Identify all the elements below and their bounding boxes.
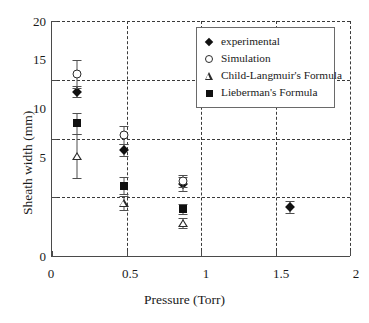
error-bar-cap	[119, 177, 128, 178]
sheath-width-vs-pressure-chart: 20 15 10 5 0 0 0.5 1 1.5 2 Pressure (Tor…	[0, 0, 369, 323]
legend-label: Simulation	[221, 53, 271, 64]
filled-square-icon	[204, 86, 218, 100]
x-axis-title: Pressure (Torr)	[0, 292, 369, 308]
legend-label: experimental	[221, 36, 280, 47]
y-axis-tick	[52, 197, 57, 198]
error-bar-cap	[73, 60, 82, 61]
data-point-open-triangle	[119, 199, 129, 207]
x-axis-tick	[127, 251, 128, 256]
data-point-open-circle	[179, 176, 188, 185]
error-bar-cap	[73, 113, 82, 114]
data-point-filled-square	[73, 119, 81, 127]
filled-diamond-icon	[204, 35, 218, 49]
legend-item-simulation: Simulation	[204, 50, 328, 67]
error-bar-cap	[119, 196, 128, 197]
error-bar-cap	[119, 194, 128, 195]
x-tick-label: 0	[31, 266, 71, 282]
legend-label: Lieberman's Formula	[221, 87, 317, 98]
error-bar-cap	[179, 187, 188, 188]
error-bar-cap	[73, 88, 82, 89]
error-bar-cap	[119, 144, 128, 145]
error-bar-cap	[179, 228, 188, 229]
x-axis-tick	[350, 251, 351, 256]
x-axis-tick	[201, 251, 202, 256]
y-axis-tick	[52, 80, 57, 81]
x-tick-label: 1.5	[261, 266, 301, 282]
legend-label: Child-Langmuir's Formula	[221, 70, 342, 81]
error-bar-cap	[119, 126, 128, 127]
y-axis-tick	[52, 21, 57, 22]
error-bar-cap	[286, 213, 295, 214]
error-bar-cap	[119, 210, 128, 211]
legend-item-child-langmuir: Child-Langmuir's Formula	[204, 67, 328, 84]
error-bar-cap	[179, 214, 188, 215]
data-point-open-triangle	[72, 152, 82, 160]
data-point-open-circle	[73, 69, 82, 78]
x-tick-label: 1	[186, 266, 226, 282]
data-point-open-triangle	[178, 219, 188, 227]
open-circle-icon	[204, 52, 218, 66]
gridline-vertical	[127, 21, 128, 256]
x-tick-label: 2	[336, 266, 369, 282]
y-tick-label: 20	[20, 14, 46, 30]
y-tick-label: 0	[20, 249, 46, 265]
data-point-open-circle	[119, 130, 128, 139]
legend-item-experimental: experimental	[204, 33, 328, 50]
data-point-filled-square	[179, 205, 187, 213]
y-axis-title: Sheath width (mm)	[20, 111, 36, 215]
error-bar-cap	[179, 191, 188, 192]
error-bar-cap	[73, 134, 82, 135]
error-bar-cap	[73, 178, 82, 179]
data-point-filled-diamond	[285, 202, 295, 212]
open-triangle-icon	[204, 69, 218, 83]
gridline-vertical	[350, 21, 351, 256]
x-axis-tick	[276, 251, 277, 256]
error-bar-cap	[119, 156, 128, 157]
y-tick-label: 15	[20, 52, 46, 68]
error-bar-cap	[73, 97, 82, 98]
y-axis-tick	[52, 139, 57, 140]
data-point-filled-square	[120, 182, 128, 190]
legend: experimental Simulation Child-Langmuir's…	[196, 27, 335, 108]
legend-item-lieberman: Lieberman's Formula	[204, 84, 328, 101]
x-tick-label: 0.5	[110, 266, 150, 282]
y-axis-tick	[52, 256, 57, 257]
